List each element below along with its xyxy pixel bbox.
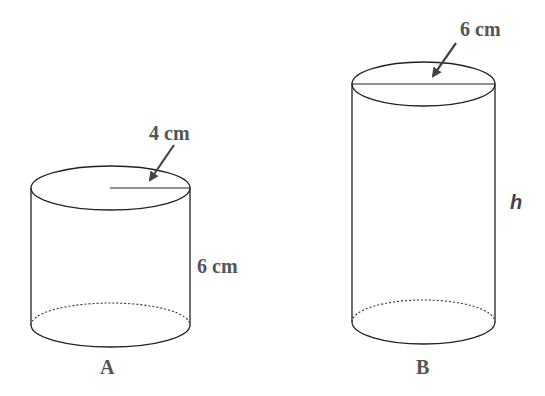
cylinder-b-diameter-arrow-icon bbox=[433, 43, 456, 76]
cylinder-b-bottom-front bbox=[352, 322, 495, 344]
cylinder-a-bottom-back-dashed bbox=[31, 303, 190, 325]
cylinder-a: 4 cm 6 cm A bbox=[31, 122, 238, 378]
cylinder-b-name: B bbox=[416, 356, 429, 378]
cylinder-a-height-label: 6 cm bbox=[197, 255, 238, 277]
cylinder-b: 6 cm h B bbox=[352, 18, 522, 378]
cylinder-b-bottom-back-dashed bbox=[352, 300, 495, 322]
cylinders-diagram: 4 cm 6 cm A 6 cm h B bbox=[0, 0, 545, 396]
cylinder-a-radius-label: 4 cm bbox=[149, 122, 190, 144]
cylinder-a-name: A bbox=[100, 356, 115, 378]
cylinder-a-bottom-front bbox=[31, 325, 190, 347]
cylinder-b-height-label: h bbox=[510, 191, 522, 213]
cylinder-b-diameter-label: 6 cm bbox=[460, 18, 501, 40]
cylinder-a-radius-arrow-icon bbox=[150, 145, 174, 180]
